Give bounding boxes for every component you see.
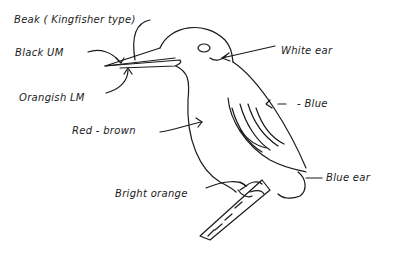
label-ear-patch: White ear [281,45,332,56]
label-feet: Bright orange [115,188,188,199]
tail-outline [278,172,305,198]
bird-head-outline [160,28,233,62]
wing-feather [248,104,278,146]
wing-feather [256,108,284,144]
label-breast: Red - brown [72,125,136,136]
wing-outline [228,98,306,172]
branch-texture [208,202,242,236]
black-um-leader [88,50,120,62]
label-black-upper-mandible: Black UM [15,47,64,58]
label-orange-lower-mandible: Orangish LM [19,92,85,103]
breast-leader [160,122,202,132]
branch [200,180,270,240]
bird-eye [198,44,210,52]
breast-outline [176,66,236,192]
bird-sketch [0,0,409,259]
label-beak: Beak ( Kingfisher type) [14,14,136,25]
label-wing: - Blue [297,98,328,109]
label-tail: Blue ear [326,172,370,183]
kingfisher-diagram: Beak ( Kingfisher type) Black UM Orangis… [0,0,409,259]
